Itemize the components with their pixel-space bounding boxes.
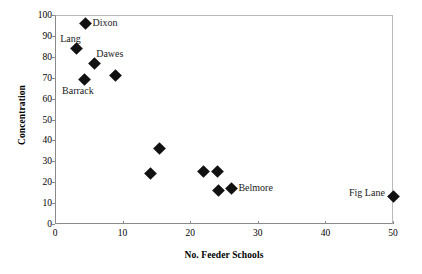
x-axis-title: No. Feeder Schools — [55, 250, 393, 260]
x-tick-label: 50 — [378, 228, 408, 239]
x-tick-label: 0 — [40, 228, 70, 239]
x-tick-label: 20 — [175, 228, 205, 239]
point-label: Dawes — [96, 48, 123, 59]
x-tick-mark — [55, 221, 56, 224]
point-label: Barrack — [62, 85, 94, 96]
x-tick-label: 30 — [243, 228, 273, 239]
scatter-chart-figure: Concentration 0102030405060708090100 010… — [0, 0, 422, 274]
point-label: Lang — [60, 33, 81, 44]
point-label: Dixon — [92, 17, 117, 28]
point-label: Belmore — [238, 182, 272, 193]
point-label: Fig Lane — [349, 187, 385, 198]
x-tick-mark — [393, 221, 394, 224]
x-tick-mark — [258, 221, 259, 224]
x-tick-label: 40 — [310, 228, 340, 239]
x-tick-mark — [190, 221, 191, 224]
x-tick-mark — [325, 221, 326, 224]
x-tick-mark — [123, 221, 124, 224]
x-tick-label: 10 — [108, 228, 138, 239]
